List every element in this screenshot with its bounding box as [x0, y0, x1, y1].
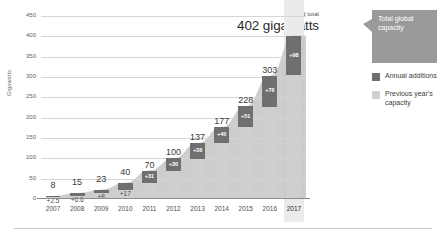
bar-segment-annual-additions: +38 — [190, 143, 205, 158]
y-axis-tick-label: 450 — [26, 12, 36, 18]
bar-2010[interactable]: +1740 — [118, 183, 133, 199]
bar-2012[interactable]: +30100 — [166, 158, 181, 199]
bar-2015[interactable]: +51228 — [238, 106, 253, 199]
bar-label-total: 8 — [51, 180, 56, 190]
bar-segment-previous-capacity — [142, 183, 157, 199]
y-axis-tick-label: 400 — [26, 32, 36, 38]
bar-label-total: 228 — [238, 95, 253, 105]
bar-label-annual-addition: +17 — [120, 191, 131, 198]
callout-total-global-capacity: Total global capacity — [372, 10, 437, 63]
bar-series: +2.58+6.615+823+1740+3170+30100+38137+40… — [41, 16, 306, 199]
bar-segment-annual-additions: +30 — [166, 158, 181, 170]
x-axis-labels: 2007200820092010201120122013201420152016… — [41, 203, 306, 217]
bar-segment-annual-additions: +76 — [262, 76, 277, 107]
bar-label-total: 15 — [72, 177, 82, 187]
x-axis-year-2008: 2008 — [65, 205, 89, 212]
bar-segment-annual-additions: +17 — [118, 183, 133, 190]
bar-segment-annual-additions: +51 — [238, 106, 253, 127]
bar-2014[interactable]: +40177 — [214, 127, 229, 199]
y-axis-tick-label: 100 — [26, 154, 36, 160]
bottom-divider — [14, 228, 432, 229]
x-axis-year-2017: 2017 — [282, 205, 306, 212]
bar-segment-annual-additions: +6.6 — [70, 193, 85, 196]
bar-segment-annual-additions: +31 — [142, 171, 157, 184]
bar-segment-previous-capacity — [262, 107, 277, 199]
x-axis-line — [37, 198, 310, 199]
legend-item-previous-capacity: Previous year's capacity — [372, 90, 440, 107]
bar-label-annual-addition: +40 — [217, 132, 226, 138]
bar-segment-annual-additions: +40 — [214, 127, 229, 143]
y-axis-title: Gigawatts — [6, 70, 12, 96]
y-axis-tick-label: 350 — [26, 53, 36, 59]
bar-label-annual-addition: +30 — [169, 162, 178, 168]
x-axis-year-2015: 2015 — [234, 205, 258, 212]
bar-2011[interactable]: +3170 — [142, 171, 157, 199]
bar-2016[interactable]: +76303 — [262, 76, 277, 199]
x-axis-year-2011: 2011 — [137, 205, 161, 212]
legend-label-previous-capacity: Previous year's capacity — [385, 90, 440, 107]
bar-label-total: 70 — [144, 160, 154, 170]
bar-label-total: 40 — [120, 167, 130, 177]
bar-segment-previous-capacity — [238, 127, 253, 199]
x-axis-year-2013: 2013 — [186, 205, 210, 212]
y-axis-tick-label: 150 — [26, 134, 36, 140]
x-axis-year-2016: 2016 — [258, 205, 282, 212]
bar-label-total: 177 — [214, 116, 229, 126]
bar-segment-previous-capacity — [286, 75, 301, 199]
callout-text: Total global capacity — [378, 15, 432, 32]
y-axis-tick-label: 50 — [29, 175, 36, 181]
legend-swatch-icon-previous-capacity — [372, 91, 380, 99]
bar-label-annual-addition: +76 — [265, 88, 274, 94]
y-axis-tick-label: 300 — [26, 73, 36, 79]
legend-item-annual-additions: Annual additions — [372, 72, 440, 81]
legend: Total global capacity Annual additions P… — [372, 10, 440, 107]
bar-segment-previous-capacity — [166, 171, 181, 199]
bar-segment-previous-capacity — [190, 159, 205, 199]
x-axis-year-2014: 2014 — [210, 205, 234, 212]
x-axis-year-2007: 2007 — [41, 205, 65, 212]
bar-2013[interactable]: +38137 — [190, 143, 205, 199]
bar-segment-annual-additions: +98 — [286, 36, 301, 76]
x-axis-year-2012: 2012 — [161, 205, 185, 212]
legend-label-annual-additions: Annual additions — [385, 72, 437, 81]
chart-root: Gigawatts World total 402 gigawatts 0501… — [0, 0, 446, 237]
bar-label-annual-addition: +31 — [145, 174, 154, 180]
bar-label-total: 23 — [96, 174, 106, 184]
bar-segment-previous-capacity — [214, 143, 229, 199]
bar-label-annual-addition: +51 — [241, 114, 250, 120]
bar-2017[interactable]: +98 — [286, 36, 301, 199]
bar-label-total: 303 — [262, 65, 277, 75]
callout-pointer-icon — [363, 19, 372, 32]
bar-label-annual-addition: +38 — [193, 148, 202, 154]
x-axis-year-2010: 2010 — [113, 205, 137, 212]
y-axis-tick-label: 250 — [26, 93, 36, 99]
plot-area: 050100150200250300350400450 +2.58+6.615+… — [41, 16, 306, 199]
bar-label-total: 100 — [166, 147, 181, 157]
bar-label-annual-addition: +98 — [289, 53, 298, 59]
bar-segment-annual-additions: +8 — [94, 190, 109, 193]
legend-swatch-icon-annual-additions — [372, 73, 380, 81]
y-axis-tick-label: 0 — [33, 195, 36, 201]
bar-segment-annual-additions: +2.5 — [46, 196, 61, 197]
y-axis-tick-label: 200 — [26, 114, 36, 120]
x-axis-year-2009: 2009 — [89, 205, 113, 212]
bar-label-total: 137 — [190, 132, 205, 142]
